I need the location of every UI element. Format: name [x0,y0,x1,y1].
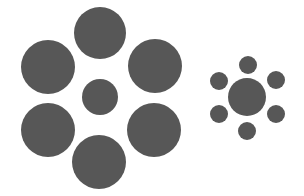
surround-circle [210,105,228,123]
surround-circle [127,103,181,157]
surround-circle [267,71,285,89]
center-circle [82,79,118,115]
surround-circle [238,122,256,140]
surround-circle [72,135,126,189]
surround-circle [210,72,228,90]
ebbinghaus-illusion-figure [0,0,304,196]
surround-circle [74,7,126,59]
surround-circle [128,39,182,93]
surround-circle [21,103,75,157]
surround-circle [239,56,257,74]
surround-circle [21,40,75,94]
surround-circle [267,105,285,123]
center-circle [228,78,266,116]
